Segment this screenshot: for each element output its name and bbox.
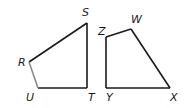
vertex-label-x: X [169, 91, 178, 104]
edge-zw [106, 29, 131, 37]
vertex-label-y: Y [106, 91, 114, 104]
edge-rs [29, 23, 87, 62]
vertex-label-s: S [82, 6, 89, 19]
quadrilateral-rstu: R S T U [18, 6, 96, 104]
vertex-label-u: U [26, 91, 34, 104]
quadrilaterals-diagram: R S T U Z W X Y [0, 0, 188, 108]
vertex-label-z: Z [97, 25, 106, 38]
quadrilateral-zwxy: Z W X Y [97, 13, 178, 104]
vertex-label-t: T [88, 91, 96, 104]
vertex-label-r: R [18, 56, 26, 69]
vertex-label-w: W [131, 13, 143, 26]
edge-ur [29, 62, 38, 88]
edge-wx [131, 29, 170, 88]
